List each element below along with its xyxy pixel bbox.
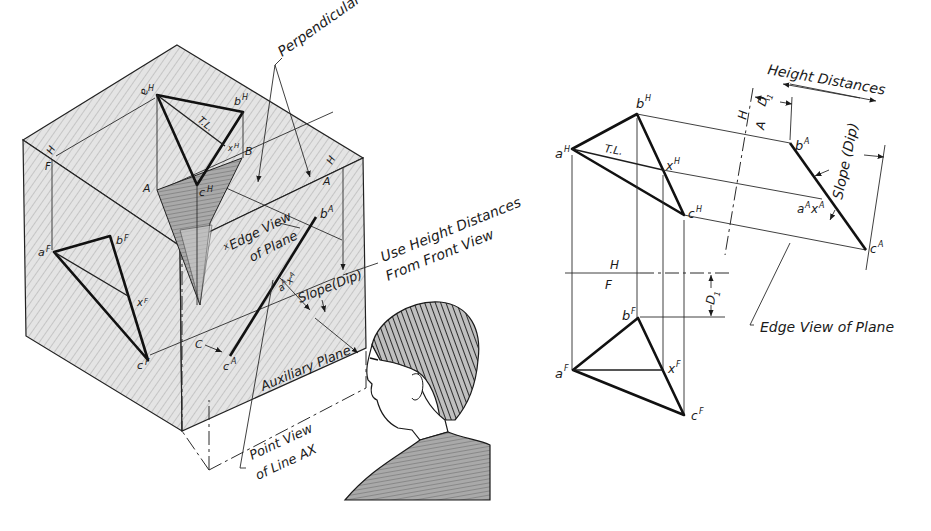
point-label-aH-sup: H bbox=[148, 84, 154, 93]
point-label-aH-ortho-sup: H bbox=[564, 145, 570, 154]
fold-label-B-top: B bbox=[245, 145, 253, 158]
orthographic-views: Height Distances Slope (Dip) Edge View o… bbox=[555, 61, 894, 423]
edge-view-line-ortho bbox=[790, 143, 866, 250]
point-label-cH-sup: H bbox=[207, 185, 213, 194]
svg-text:a: a bbox=[797, 202, 804, 216]
svg-text:x: x bbox=[810, 202, 819, 216]
svg-text:A: A bbox=[804, 201, 810, 210]
svg-text:1: 1 bbox=[713, 291, 723, 298]
fold-label-C-bottom: C bbox=[195, 338, 203, 351]
point-label-cF-sup: F bbox=[145, 358, 150, 367]
slope-label-ortho: Slope (Dip) bbox=[829, 121, 861, 200]
edge-view-label-ortho: Edge View of Plane bbox=[760, 319, 894, 335]
d1-arrow-right-aux bbox=[780, 102, 792, 104]
fold-label-A-right: A bbox=[322, 175, 331, 188]
fold-label-H-hf: H bbox=[610, 258, 619, 272]
point-label-bA-ortho-sup: A bbox=[803, 137, 809, 146]
point-label-xF-ortho: x bbox=[667, 362, 676, 376]
fold-label-A-ha: A bbox=[753, 120, 768, 132]
point-label-cF-ortho: c bbox=[691, 409, 698, 423]
point-label-bF-ortho: b bbox=[622, 308, 630, 323]
point-label-xH-sup: H bbox=[234, 142, 240, 150]
point-label-bH-sup: H bbox=[242, 93, 248, 102]
point-label-bA-ortho: b bbox=[795, 138, 803, 153]
slope-reference-arrow bbox=[864, 155, 884, 157]
fold-label-F-left: F bbox=[45, 161, 51, 172]
point-label-xH-ortho-sup: H bbox=[674, 157, 680, 166]
true-length-label-ortho: T.L. bbox=[603, 142, 624, 158]
point-label-xF-ortho-sup: F bbox=[676, 360, 681, 369]
point-label-bA: b bbox=[320, 207, 328, 221]
point-label-cF-ortho-sup: F bbox=[699, 407, 704, 416]
projector-c-aux bbox=[684, 215, 866, 250]
point-label-cA-sup: A bbox=[230, 357, 236, 366]
perpendicular-leader bbox=[275, 58, 282, 65]
point-label-bF-ortho-sup: F bbox=[631, 307, 636, 316]
point-label-bH-ortho-sup: H bbox=[645, 94, 651, 103]
point-label-aH-ortho: a bbox=[555, 146, 563, 161]
point-label-cA-ortho-sup: A bbox=[877, 240, 883, 249]
fold-label-A-top: A bbox=[142, 182, 151, 195]
d1-label-front: D 1 bbox=[703, 289, 722, 306]
point-label-cA-ortho: c bbox=[870, 242, 877, 256]
point-label-bH-ortho: b bbox=[636, 96, 644, 111]
point-label-bA-sup: A bbox=[327, 205, 333, 214]
point-label-bF-sup: F bbox=[124, 234, 129, 243]
point-label-aF: a bbox=[38, 246, 45, 259]
box-hidden-edge-bottom bbox=[182, 431, 209, 470]
fold-label-F-hf: F bbox=[605, 278, 613, 292]
point-label-bH: b bbox=[234, 95, 241, 108]
perpendicular-label: Perpendicular bbox=[275, 0, 364, 59]
point-label-aF-ortho: a bbox=[555, 366, 563, 381]
point-label-aAxA-ortho: a A x A bbox=[797, 201, 824, 216]
point-label-cH-ortho: c bbox=[688, 207, 695, 221]
projector-x-aux bbox=[663, 170, 822, 199]
point-label-bF: b bbox=[116, 234, 123, 247]
observer-head-illustration bbox=[345, 302, 490, 500]
fold-label-H-ha: H bbox=[735, 109, 750, 120]
slope-arrow-2-ortho bbox=[830, 210, 835, 220]
d1-label-aux: D 1 bbox=[755, 90, 776, 109]
point-label-aF-ortho-sup: F bbox=[564, 364, 569, 373]
drawing-canvas: Perpendicular Use Height Distances From … bbox=[0, 0, 931, 531]
observer-shoulders bbox=[345, 432, 490, 500]
point-label-aF-sup: F bbox=[46, 245, 51, 254]
point-label-xF: x bbox=[136, 297, 143, 308]
point-label-cH: c bbox=[199, 186, 205, 199]
point-label-xH: x bbox=[227, 144, 233, 153]
point-label-cF: c bbox=[137, 359, 143, 372]
point-label-cA: c bbox=[223, 360, 229, 373]
point-label-xH-ortho: x bbox=[665, 159, 674, 173]
edge-view-leader-ortho bbox=[750, 243, 790, 325]
svg-text:A: A bbox=[818, 201, 824, 210]
point-label-cH-ortho-sup: H bbox=[696, 205, 702, 214]
slope-arrow-1-ortho bbox=[815, 170, 829, 176]
